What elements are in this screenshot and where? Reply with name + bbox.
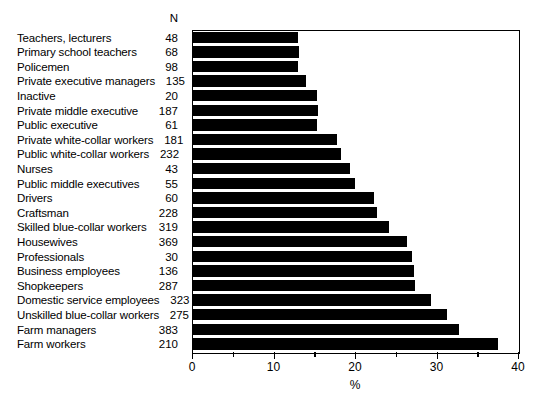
category-row: Nurses43 [0,161,186,176]
category-label: Public middle executives [0,178,148,190]
x-axis: % 010203040 [192,352,520,397]
n-column-header: N [120,12,178,24]
bar-chart-figure: N Teachers, lecturers48Primary school te… [0,0,541,397]
category-label: Craftsman [0,207,148,219]
category-row: Teachers, lecturers48 [0,30,186,45]
category-row: Skilled blue-collar workers319 [0,220,186,235]
category-n-value: 43 [148,163,186,175]
category-row: Craftsman228 [0,205,186,220]
bar [193,75,306,86]
category-row: Unskilled blue-collar workers275 [0,307,186,322]
category-n-value: 60 [148,192,186,204]
bar [193,61,298,72]
plot-area [192,30,520,354]
bar [193,148,341,159]
x-axis-tick [518,352,519,359]
x-axis-tick [437,352,438,359]
category-n-value: 187 [148,105,186,117]
category-label: Teachers, lecturers [0,32,148,44]
category-label: Public white-collar workers [0,148,149,160]
bar [193,192,374,203]
bar [193,178,355,189]
category-row: Public middle executives55 [0,176,186,191]
bar [193,90,317,101]
x-axis-tick-label: 40 [498,360,538,374]
x-axis-title: % [192,378,518,392]
x-axis-tick-label: 0 [172,360,212,374]
category-row: Inactive20 [0,88,186,103]
bar [193,309,447,320]
category-n-value: 369 [148,236,186,248]
category-n-value: 68 [148,46,186,58]
x-axis-tick [192,352,193,359]
category-n-value: 228 [148,207,186,219]
category-label: Nurses [0,163,148,175]
category-row: Drivers60 [0,191,186,206]
category-label: Farm workers [0,338,148,350]
category-label: Shopkeepers [0,280,148,292]
category-n-value: 55 [148,178,186,190]
bar [193,236,407,247]
bar [193,251,412,262]
bar [193,280,415,291]
category-row: Private executive managers135 [0,74,186,89]
category-n-value: 30 [148,251,186,263]
bars-container [193,31,519,353]
category-label: Policemen [0,61,148,73]
bar [193,265,414,276]
category-label: Drivers [0,192,148,204]
bar [193,46,299,57]
x-axis-tick-label: 30 [417,360,457,374]
category-row: Primary school teachers68 [0,45,186,60]
category-n-value: 232 [149,148,187,160]
category-label: Public executive [0,119,148,131]
x-axis-tick-label: 20 [335,360,375,374]
category-row: Shopkeepers287 [0,278,186,293]
category-label: Farm managers [0,324,148,336]
bar [193,221,389,232]
category-label: Domestic service employees [0,294,159,306]
x-axis-tick [396,352,397,357]
category-label: Professionals [0,251,148,263]
bar [193,119,317,130]
category-label: Housewives [0,236,148,248]
bar [193,105,318,116]
bar [193,338,498,349]
category-label: Skilled blue-collar workers [0,221,148,233]
category-n-value: 181 [153,134,191,146]
x-axis-tick [355,352,356,359]
category-row: Domestic service employees323 [0,293,186,308]
bar [193,207,377,218]
category-n-value: 20 [148,90,186,102]
category-row: Farm managers383 [0,322,186,337]
category-label: Inactive [0,90,148,102]
bar [193,294,431,305]
category-n-value: 48 [148,32,186,44]
category-label: Private white-collar workers [0,134,153,146]
category-n-value: 135 [155,75,193,87]
category-row: Policemen98 [0,59,186,74]
category-n-value: 210 [148,338,186,350]
category-n-value: 98 [148,61,186,73]
bar [193,32,298,43]
category-row: Public executive61 [0,118,186,133]
category-label: Primary school teachers [0,46,148,58]
category-row: Farm workers210 [0,337,186,352]
category-n-value: 61 [148,119,186,131]
category-row: Business employees136 [0,264,186,279]
bar [193,134,337,145]
category-n-value: 319 [148,221,186,233]
x-axis-tick [274,352,275,359]
category-row: Public white-collar workers232 [0,147,186,162]
category-label: Private middle executive [0,105,148,117]
x-axis-tick-label: 10 [254,360,294,374]
x-axis-tick [233,352,234,357]
category-row: Private white-collar workers181 [0,132,186,147]
category-label: Business employees [0,265,148,277]
x-axis-tick [314,352,315,357]
category-row: Professionals30 [0,249,186,264]
bar [193,163,350,174]
category-label: Unskilled blue-collar workers [0,309,159,321]
category-row: Private middle executive187 [0,103,186,118]
x-axis-tick [477,352,478,357]
